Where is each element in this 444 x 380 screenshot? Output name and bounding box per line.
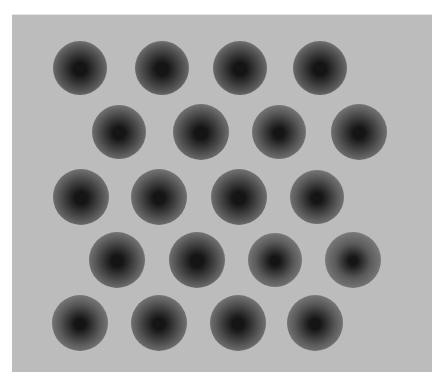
circular-spot bbox=[248, 233, 302, 287]
circular-spot bbox=[210, 295, 266, 351]
circular-spot bbox=[131, 169, 187, 225]
circular-spot bbox=[287, 295, 343, 351]
circular-spot bbox=[331, 104, 387, 160]
circular-spot bbox=[213, 41, 267, 95]
circular-spot bbox=[325, 232, 381, 288]
circular-spot bbox=[131, 295, 187, 351]
circular-spot bbox=[169, 232, 225, 288]
circular-spot bbox=[211, 169, 267, 225]
circular-spot bbox=[293, 41, 347, 95]
circular-spot bbox=[290, 170, 344, 224]
circular-spot bbox=[92, 105, 146, 159]
circular-spot bbox=[173, 104, 229, 160]
circular-spot bbox=[52, 295, 108, 351]
circular-spot bbox=[53, 41, 107, 95]
image-panel bbox=[12, 14, 432, 372]
circular-spot bbox=[135, 41, 189, 95]
circular-spot bbox=[53, 169, 109, 225]
circular-spot bbox=[89, 232, 145, 288]
circular-spot bbox=[252, 105, 306, 159]
